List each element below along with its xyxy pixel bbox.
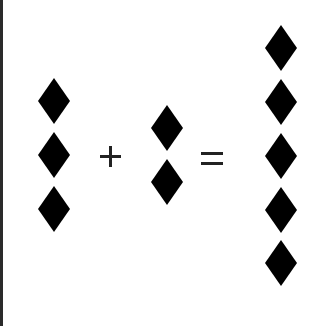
diamond-icon [265,79,297,125]
diamond-icon [38,186,70,232]
diamond-icon [265,133,297,179]
diamond-icon [38,78,70,124]
diamond-icon [265,25,297,71]
diamond-icon [265,187,297,233]
equals-sign [201,150,223,163]
plus-sign [100,146,121,167]
left-border [0,0,3,326]
diamond-icon [151,105,183,151]
diamond-icon [151,159,183,205]
diamond-icon [265,240,297,286]
diamond-icon [38,132,70,178]
equation-diagram [0,0,329,326]
